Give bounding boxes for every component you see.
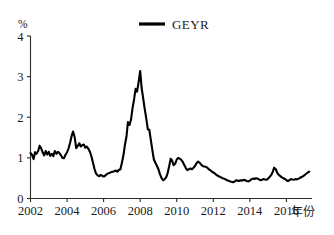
x-axis-tick-label: 2010 [164, 204, 189, 218]
y-axis-unit-label: % [18, 18, 28, 30]
legend-label-geyr: GEYR [172, 17, 209, 32]
x-axis-tick-label: 2014 [237, 204, 263, 218]
x-axis-tick-label: 2012 [201, 204, 226, 218]
y-axis-tick-label: 4 [17, 30, 24, 44]
chart-canvas: GEYR % 01234 200220042006200820102012201… [0, 0, 334, 235]
y-axis-tick-label: 3 [17, 70, 23, 84]
y-axis-tick-label: 2 [17, 111, 23, 125]
chart-background [0, 0, 334, 235]
x-axis-tick-label: 2008 [128, 204, 153, 218]
x-axis-tick-label: 2006 [91, 204, 116, 218]
chart-figure: GEYR % 01234 200220042006200820102012201… [0, 0, 334, 235]
x-axis-title: 年份 [291, 205, 315, 219]
y-axis-tick-label: 1 [17, 151, 23, 165]
x-axis-tick-label: 2004 [55, 204, 81, 218]
x-axis-tick-label: 2002 [18, 204, 43, 218]
